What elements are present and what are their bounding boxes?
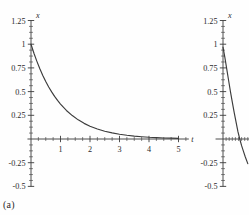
y-tick-label: 0.5 (207, 88, 217, 97)
y-tick-label: 0.75 (11, 64, 25, 73)
x-tick-label: 5 (176, 145, 180, 154)
data-curve (31, 44, 179, 138)
data-curve (223, 47, 248, 164)
y-tick-label: 0.75 (203, 64, 217, 73)
y-axis-label: x (227, 11, 232, 20)
y-axis-label: x (35, 11, 40, 20)
plot-area-a: 12345-0.5-0.250.250.50.7511.25xt (0, 0, 190, 196)
plot-area-b: -0.5-0.250.250.50.7511.25x (190, 0, 249, 196)
y-tick-label: -0.25 (8, 159, 25, 168)
chart-panel-a: 12345-0.5-0.250.250.50.7511.25xt (a) (0, 0, 190, 215)
figure-container: 12345-0.5-0.250.250.50.7511.25xt (a) -0.… (0, 0, 249, 215)
panel-caption-a: (a) (3, 199, 15, 210)
x-tick-label: 3 (117, 145, 121, 154)
y-tick-label: 1 (21, 40, 25, 49)
y-tick-label: 0.25 (203, 111, 217, 120)
y-tick-label: -0.5 (13, 182, 26, 191)
x-tick-label: 4 (147, 145, 151, 154)
x-tick-label: 2 (88, 145, 92, 154)
chart-panel-b: -0.5-0.250.250.50.7511.25x (b) (190, 0, 249, 215)
x-tick-label: 1 (58, 145, 62, 154)
y-tick-label: -0.25 (200, 159, 217, 168)
y-tick-label: 0.25 (11, 111, 25, 120)
y-tick-label: 1.25 (203, 17, 217, 26)
y-tick-label: 0.5 (15, 88, 25, 97)
y-tick-label: 1.25 (11, 17, 25, 26)
y-tick-label: -0.5 (205, 182, 218, 191)
y-tick-label: 1 (213, 40, 217, 49)
